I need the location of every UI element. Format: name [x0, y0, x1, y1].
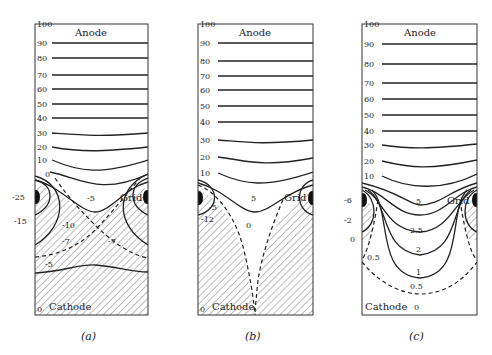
tick-label: 90 — [37, 39, 47, 48]
tick-label: 80 — [364, 60, 374, 69]
contour-label: 0.5 — [367, 253, 380, 262]
side-label: -25 — [12, 193, 25, 202]
tick-label: 60 — [37, 85, 47, 94]
negative-region-hatch — [256, 190, 313, 315]
tick-label: 90 — [200, 39, 210, 48]
contour-label: -5 — [45, 260, 53, 269]
anode-label: Anode — [403, 27, 436, 38]
contour-label: -12 — [201, 215, 214, 224]
cathode-label: Cathode — [212, 301, 254, 312]
tick-label: 20 — [200, 153, 210, 162]
contour-label: -10 — [62, 221, 75, 230]
tick-label: 30 — [200, 136, 210, 145]
grid-label: Grid — [284, 192, 307, 203]
grid-label: Grid — [120, 192, 143, 203]
caption-a: (a) — [81, 330, 96, 343]
contour-label: 5 — [416, 197, 421, 206]
side-label: -6 — [344, 196, 352, 205]
tick-label: 20 — [364, 157, 374, 166]
tick-label: 40 — [200, 118, 210, 127]
tick-label: 70 — [364, 79, 374, 88]
contour-label: -7 — [62, 237, 70, 246]
tick-label: 30 — [37, 129, 47, 138]
tick-label: 70 — [37, 71, 47, 80]
panel-b: 100 90 80 70 60 50 40 30 20 10 Anode 5 -… — [195, 20, 316, 343]
tick-label: 60 — [200, 86, 210, 95]
contour-label: 5 — [251, 194, 256, 203]
contour-label: 2 — [416, 245, 421, 254]
side-label: -2 — [344, 216, 352, 225]
grid-wire-icon — [32, 190, 40, 204]
tick-label: 100 — [364, 20, 379, 29]
corner-label: 0 — [37, 305, 42, 314]
tick-label: 50 — [200, 102, 210, 111]
contour-label: -5 — [87, 194, 95, 203]
tick-label: 20 — [37, 143, 47, 152]
contour-label: -5 — [209, 203, 217, 212]
anode-label: Anode — [74, 27, 107, 38]
negative-region-hatch — [35, 185, 148, 315]
grid-label: Grid — [447, 195, 470, 206]
corner-label: 0 — [200, 305, 205, 314]
tick-label: 50 — [364, 111, 374, 120]
contour-label: 0 — [246, 221, 251, 230]
grid-wire-icon — [472, 193, 480, 207]
panel-c: 100 90 80 70 60 50 40 30 20 10 Anode -6 … — [344, 20, 480, 343]
tick-label: 100 — [200, 20, 215, 29]
tick-label: 40 — [364, 127, 374, 136]
tick-label: 10 — [37, 156, 47, 165]
cathode-value-label: 0 — [414, 303, 419, 312]
tick-label: 10 — [200, 169, 210, 178]
contour-label: 0.5 — [410, 282, 423, 291]
tick-label: 10 — [364, 172, 374, 181]
side-label: -15 — [14, 217, 27, 226]
grid-wire-icon — [195, 191, 203, 205]
tick-label: 100 — [37, 20, 52, 29]
cathode-label: Cathode — [365, 301, 407, 312]
tick-label: 80 — [37, 54, 47, 63]
tick-label: 50 — [37, 100, 47, 109]
cathode-label: Cathode — [49, 301, 91, 312]
tick-label: 30 — [364, 141, 374, 150]
grid-wire-icon — [359, 193, 367, 207]
tick-label: 80 — [200, 57, 210, 66]
tick-label: 40 — [37, 114, 47, 123]
anode-label: Anode — [238, 27, 271, 38]
tick-label: 60 — [364, 95, 374, 104]
contour-label: 1 — [416, 268, 421, 277]
caption-b: (b) — [245, 330, 261, 343]
tick-label: 70 — [200, 72, 210, 81]
triode-potential-diagram: 100 90 80 70 60 50 40 30 20 10 0 Anode -… — [0, 0, 492, 355]
tick-label: 0 — [45, 170, 50, 179]
panel-a: 100 90 80 70 60 50 40 30 20 10 0 Anode -… — [12, 20, 151, 343]
tick-label: 90 — [364, 40, 374, 49]
contour-label: -7 — [108, 237, 116, 246]
grid-wire-icon — [308, 191, 316, 205]
contour-label: 2.5 — [410, 226, 423, 235]
grid-wire-icon — [143, 190, 151, 204]
side-label: 0 — [350, 235, 355, 244]
caption-c: (c) — [409, 330, 424, 343]
